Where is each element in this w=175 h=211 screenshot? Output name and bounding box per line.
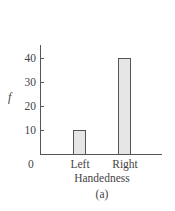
y-tick-label: 30 (16, 76, 36, 88)
y-axis (40, 45, 41, 155)
origin-label: 0 (28, 158, 34, 170)
y-tick (40, 82, 44, 83)
y-tick-label: 40 (16, 52, 36, 64)
x-axis (40, 154, 162, 155)
y-axis-title: f (8, 90, 11, 105)
x-axis-title: Handedness (62, 172, 142, 184)
y-tick (40, 130, 44, 131)
y-tick (40, 106, 44, 107)
y-tick-label: 20 (16, 100, 36, 112)
category-label-left: Left (60, 158, 100, 170)
bar-right (118, 58, 131, 154)
y-tick (40, 58, 44, 59)
figure-caption: (a) (82, 188, 122, 200)
category-label-right: Right (105, 158, 145, 170)
y-tick-label: 10 (16, 124, 36, 136)
bar-left (73, 130, 86, 154)
bar-chart: 10203040 0 LeftRight f Handedness (a) (0, 0, 175, 211)
